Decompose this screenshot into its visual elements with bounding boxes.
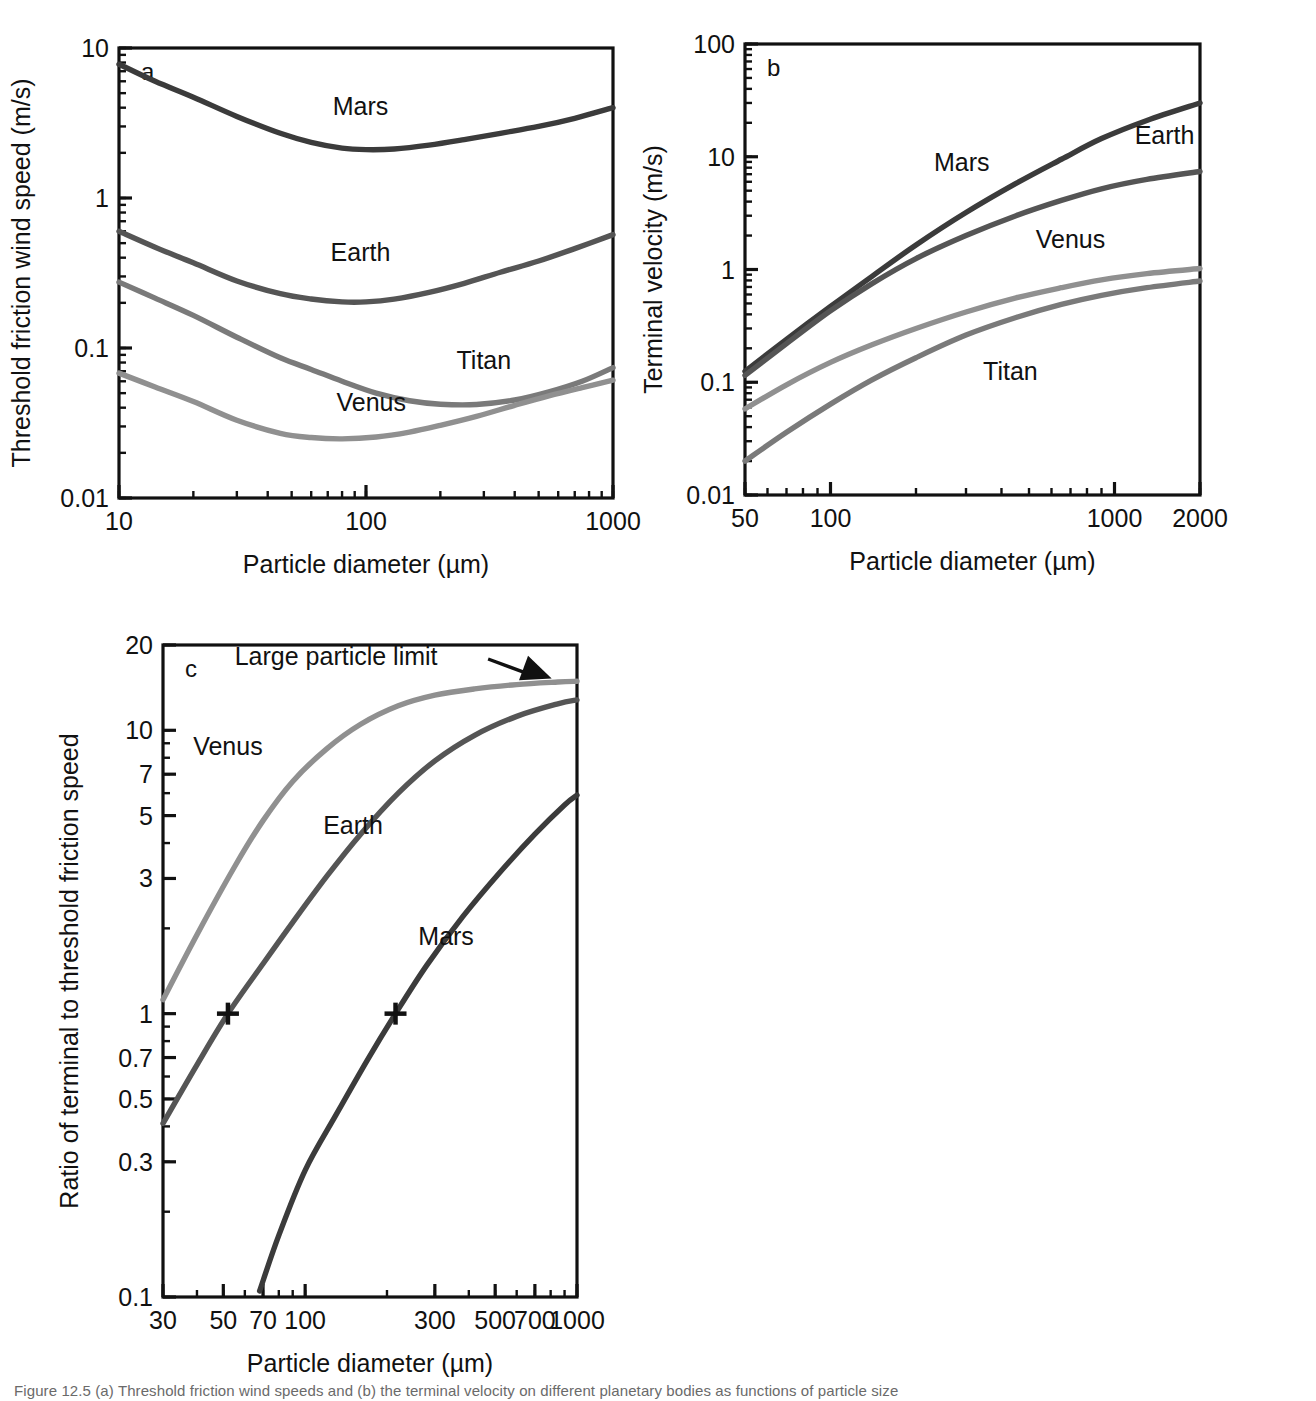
y-tick-label: 20 (125, 631, 153, 659)
curve-label-earth: Earth (323, 811, 383, 839)
panel-letter: c (185, 655, 197, 682)
y-tick-label: 7 (139, 760, 153, 788)
y-tick-label: 0.3 (118, 1148, 153, 1176)
plot-frame (745, 44, 1200, 495)
curve-venus (163, 681, 577, 999)
curve-label-venus: Venus (336, 388, 406, 416)
y-tick-label: 3 (139, 864, 153, 892)
x-tick-label: 100 (345, 507, 387, 535)
panel-c-svg: 30507010030050070010000.10.30.50.7135710… (0, 600, 660, 1390)
x-axis-label: Particle diameter (µm) (247, 1349, 493, 1377)
y-tick-label: 0.01 (686, 481, 735, 509)
curve-label-mars: Mars (333, 92, 389, 120)
curve-mars (260, 795, 577, 1291)
y-axis-label: Ratio of terminal to threshold friction … (55, 733, 83, 1208)
x-tick-label: 100 (810, 504, 852, 532)
x-tick-label: 500 (474, 1306, 516, 1334)
x-tick-label: 50 (731, 504, 759, 532)
y-tick-label: 1 (139, 1000, 153, 1028)
x-tick-label: 2000 (1172, 504, 1228, 532)
curve-label-venus: Venus (193, 732, 263, 760)
y-tick-label: 10 (125, 716, 153, 744)
y-tick-label: 5 (139, 802, 153, 830)
y-tick-label: 0.1 (118, 1283, 153, 1311)
curve-label-earth: Earth (331, 238, 391, 266)
x-tick-label: 30 (149, 1306, 177, 1334)
x-tick-label: 300 (414, 1306, 456, 1334)
curve-label-venus: Venus (1036, 225, 1106, 253)
y-tick-label: 0.5 (118, 1085, 153, 1113)
curve-label-titan: Titan (983, 357, 1038, 385)
x-tick-label: 70 (249, 1306, 277, 1334)
y-axis-label: Threshold friction wind speed (m/s) (7, 78, 35, 467)
panel-a: 1010010000.010.1110aMarsEarthTitanVenusP… (0, 0, 660, 580)
x-tick-label: 1000 (1087, 504, 1143, 532)
x-tick-label: 100 (284, 1306, 326, 1334)
y-tick-label: 1 (95, 184, 109, 212)
curve-label-mars: Mars (934, 148, 990, 176)
panel-letter: b (767, 54, 780, 81)
y-tick-label: 100 (693, 30, 735, 58)
x-axis-label: Particle diameter (µm) (243, 550, 489, 578)
annotation-arrow-head (519, 656, 552, 680)
y-tick-label: 10 (81, 34, 109, 62)
y-tick-label: 0.7 (118, 1044, 153, 1072)
panel-b: 50100100020000.010.1110100bMarsEarthVenu… (640, 0, 1316, 580)
x-tick-label: 1000 (549, 1306, 605, 1334)
curve-label-earth: Earth (1135, 121, 1195, 149)
x-tick-label: 1000 (585, 507, 641, 535)
panel-a-svg: 1010010000.010.1110aMarsEarthTitanVenusP… (0, 0, 660, 580)
figure-caption: Figure 12.5 (a) Threshold friction wind … (0, 1382, 1316, 1401)
curve-label-mars: Mars (418, 922, 474, 950)
y-tick-label: 0.1 (700, 368, 735, 396)
y-tick-label: 10 (707, 143, 735, 171)
panel-b-svg: 50100100020000.010.1110100bMarsEarthVenu… (640, 0, 1316, 580)
curve-label-titan: Titan (457, 346, 512, 374)
x-tick-label: 10 (105, 507, 133, 535)
x-axis-label: Particle diameter (µm) (849, 547, 1095, 575)
annotation-large-particle-limit: Large particle limit (235, 642, 438, 670)
y-tick-label: 0.01 (60, 484, 109, 512)
panel-c: 30507010030050070010000.10.30.50.7135710… (0, 600, 660, 1390)
y-tick-label: 0.1 (74, 334, 109, 362)
x-tick-label: 50 (209, 1306, 237, 1334)
y-axis-label: Terminal velocity (m/s) (640, 145, 667, 394)
y-tick-label: 1 (721, 256, 735, 284)
